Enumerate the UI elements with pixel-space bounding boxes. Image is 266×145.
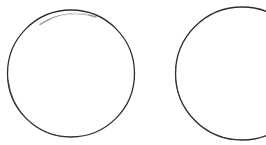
two-circles-figure — [0, 0, 266, 145]
figure-canvas — [0, 0, 266, 145]
canvas-background — [0, 0, 266, 145]
